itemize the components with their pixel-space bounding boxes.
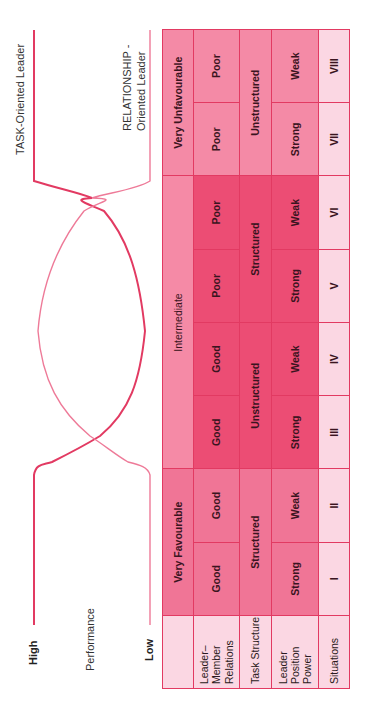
lmr-cell: Poor — [194, 103, 240, 176]
situation-cell: VII — [319, 103, 350, 176]
row-label-task-structure: Task Structure — [240, 616, 272, 689]
power-cell: Weak — [272, 323, 319, 396]
lmr-cell: Poor — [194, 176, 240, 249]
favourability-intermediate: Intermediate — [163, 176, 194, 469]
rotated-diagram: High Performance Low TASK-Oriented Leade… — [0, 0, 366, 711]
power-cell: Strong — [272, 249, 319, 322]
axis-low-label: Low — [143, 639, 155, 661]
situation-cell: I — [319, 542, 350, 615]
fiedler-table: Very Favourable Intermediate Very Unfavo… — [162, 29, 350, 689]
power-cell: Weak — [272, 30, 319, 103]
power-cell: Strong — [272, 396, 319, 469]
lmr-cell: Good — [194, 469, 240, 542]
task-structure-cell: Unstructured — [240, 323, 272, 470]
situation-cell: IV — [319, 323, 350, 396]
leader-member-relations-row: Leader–Member Relations Good Good Good G… — [194, 30, 240, 689]
situations-row: Situations I II III IV V VI VII VIII — [319, 30, 350, 689]
situation-cell: V — [319, 249, 350, 322]
situation-cell: III — [319, 396, 350, 469]
task-structure-row: Task Structure Structured Unstructured S… — [240, 30, 272, 689]
lmr-cell: Good — [194, 542, 240, 615]
task-structure-cell: Structured — [240, 469, 272, 616]
row-label-leader-position-power: Leader Position Power — [272, 616, 319, 689]
task-oriented-label: TASK-Oriented Leader — [14, 44, 26, 155]
axis-high-label: High — [27, 641, 39, 665]
power-cell: Weak — [272, 469, 319, 542]
task-structure-cell: Unstructured — [240, 30, 272, 177]
situation-cell: II — [319, 469, 350, 542]
relationship-oriented-label: RELATIONSHIP - Oriented Leader — [120, 45, 148, 131]
power-cell: Strong — [272, 103, 319, 176]
power-cell: Strong — [272, 542, 319, 615]
favourability-very-favourable: Very Favourable — [163, 469, 194, 616]
power-cell: Weak — [272, 176, 319, 249]
task-structure-cell: Structured — [240, 176, 272, 323]
lmr-cell: Good — [194, 323, 240, 396]
corner-cell — [163, 616, 194, 689]
favourability-very-unfavourable: Very Unfavourable — [163, 30, 194, 177]
situation-cell: VI — [319, 176, 350, 249]
lmr-cell: Poor — [194, 30, 240, 103]
lmr-cell: Good — [194, 396, 240, 469]
row-label-leader-member-relations: Leader–Member Relations — [194, 616, 240, 689]
lmr-cell: Poor — [194, 249, 240, 322]
row-label-situations: Situations — [319, 616, 350, 689]
leader-position-power-row: Leader Position Power Strong Weak Strong… — [272, 30, 319, 689]
situation-cell: VIII — [319, 30, 350, 103]
axis-performance-label: Performance — [84, 608, 96, 671]
favourability-row: Very Favourable Intermediate Very Unfavo… — [163, 30, 194, 689]
